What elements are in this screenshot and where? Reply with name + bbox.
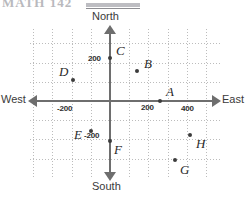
west-arrow-icon: [28, 95, 37, 107]
point-label-b: B: [144, 56, 152, 72]
page-header-strip: MATH 142: [0, 0, 249, 11]
data-point-b: [135, 69, 139, 73]
compass-label-east: East: [222, 93, 244, 105]
gridline-vertical: [72, 29, 73, 177]
compass-label-north: North: [92, 10, 119, 22]
gridline-horizontal: [30, 82, 220, 83]
tick-label-x-neg200: -200: [57, 104, 72, 113]
gridline-horizontal: [30, 139, 220, 140]
gridline-vertical: [206, 29, 207, 177]
y-axis-line: [109, 33, 111, 174]
tick-label-y-200: 200: [88, 54, 101, 63]
north-arrow-icon: [104, 25, 116, 34]
point-label-h: H: [196, 136, 205, 152]
gridline-vertical: [187, 29, 188, 177]
figure-canvas: MATH 142 North South West East 200 -200 …: [0, 0, 249, 199]
east-arrow-icon: [212, 95, 221, 107]
gridline-horizontal: [30, 120, 220, 121]
gridline-vertical: [52, 29, 53, 177]
point-label-c: C: [116, 43, 125, 59]
tick-label-x-400: 400: [181, 104, 194, 113]
gridline-vertical: [129, 29, 130, 177]
gridline-horizontal: [30, 159, 220, 160]
header-faint-text: MATH 142: [2, 0, 72, 11]
x-axis-line: [33, 100, 214, 102]
data-point-h: [188, 133, 192, 137]
gridline-vertical: [91, 29, 92, 177]
data-point-d: [71, 78, 75, 82]
grid-area: [30, 29, 220, 177]
data-point-a: [158, 99, 162, 103]
point-label-a: A: [166, 84, 174, 100]
data-point-c: [108, 56, 112, 60]
point-label-e: E: [74, 127, 82, 143]
point-label-d: D: [59, 64, 68, 80]
data-point-g: [173, 158, 177, 162]
point-label-f: F: [114, 142, 122, 158]
compass-label-south: South: [92, 180, 121, 192]
gridline-vertical: [168, 29, 169, 177]
header-rule-underline: [86, 8, 140, 9]
header-rule: [86, 3, 140, 7]
point-label-g: G: [180, 162, 189, 178]
data-point-f: [108, 139, 112, 143]
data-point-e: [89, 129, 93, 133]
compass-label-west: West: [1, 93, 26, 105]
gridline-horizontal: [30, 43, 220, 44]
tick-label-x-200: 200: [141, 103, 154, 112]
